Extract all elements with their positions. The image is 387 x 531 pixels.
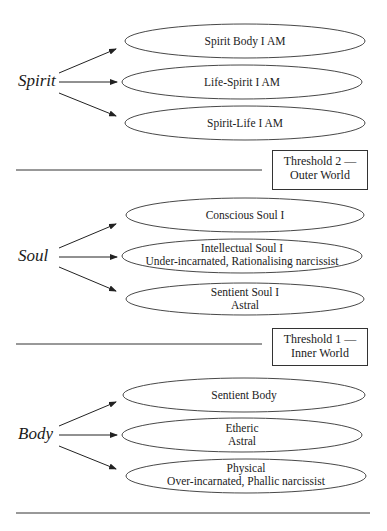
node-spirit-body: Spirit Body I AM [125, 35, 365, 48]
node-line1: Physical [126, 462, 366, 475]
threshold-2-line2: Outer World [273, 168, 367, 182]
node-line2: Over-incarnated, Phallic narcissist [126, 475, 366, 488]
node-physical: Physical Over-incarnated, Phallic narcis… [126, 462, 366, 488]
node-etheric: Etheric Astral [122, 422, 362, 448]
spirit-arrows [59, 49, 117, 116]
node-line1: Spirit-Life I AM [125, 117, 365, 130]
node-line1: Sentient Body [123, 389, 365, 402]
threshold-2-line1: Threshold 2 — [273, 154, 367, 168]
arrow-icon [59, 267, 116, 291]
arrow-icon [59, 93, 116, 116]
node-conscious-soul: Conscious Soul I [126, 209, 364, 222]
node-life-spirit: Life-Spirit I AM [122, 76, 362, 89]
threshold-1-line1: Threshold 1 — [273, 332, 367, 346]
node-line1: Etheric [122, 422, 362, 435]
group-label-spirit: Spirit [18, 71, 56, 91]
arrow-icon [59, 402, 116, 426]
node-line2: Astral [126, 299, 364, 312]
node-sentient-body: Sentient Body [123, 389, 365, 402]
group-label-body: Body [18, 424, 53, 444]
node-line1: Conscious Soul I [126, 209, 364, 222]
body-arrows [59, 402, 117, 469]
node-sentient-soul: Sentient Soul I Astral [126, 286, 364, 312]
arrow-icon [59, 446, 116, 469]
node-line1: Spirit Body I AM [125, 35, 365, 48]
threshold-1-line2: Inner World [273, 346, 367, 360]
node-intellectual-soul: Intellectual Soul I Under-incarnated, Ra… [122, 242, 362, 268]
soul-arrows [59, 224, 117, 291]
node-line1: Intellectual Soul I [122, 242, 362, 255]
arrow-icon [59, 224, 116, 248]
threshold-2-box: Threshold 2 — Outer World [272, 150, 368, 190]
group-label-soul: Soul [18, 246, 48, 266]
threshold-1-box: Threshold 1 — Inner World [272, 328, 368, 366]
node-line2: Astral [122, 435, 362, 448]
node-line1: Sentient Soul I [126, 286, 364, 299]
node-line1: Life-Spirit I AM [122, 76, 362, 89]
node-line2: Under-incarnated, Rationalising narcissi… [122, 255, 362, 268]
node-spirit-life: Spirit-Life I AM [125, 117, 365, 130]
arrow-icon [59, 49, 116, 73]
